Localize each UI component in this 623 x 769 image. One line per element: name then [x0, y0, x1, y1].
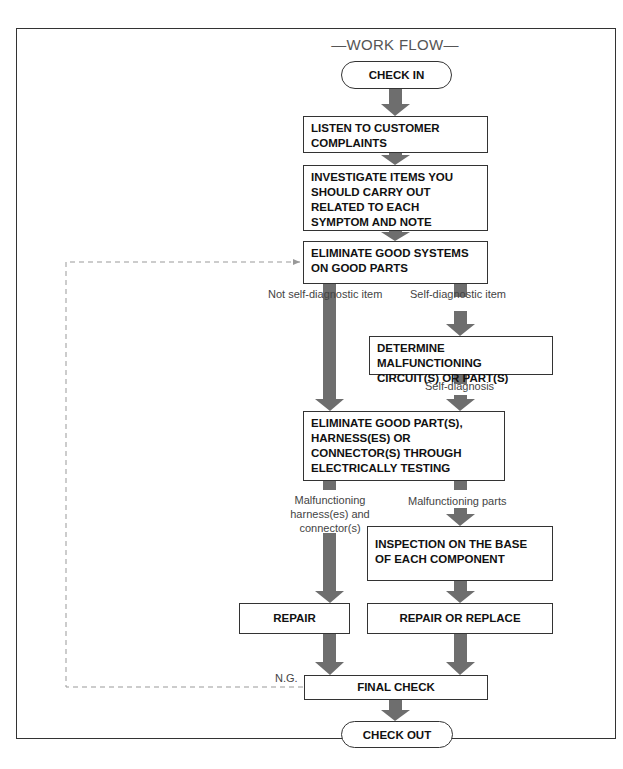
repair-node: REPAIR — [239, 603, 350, 634]
malfunctioning-harness-label: Malfunctioning harness(es) and connector… — [290, 493, 370, 535]
not-self-diagnostic-label: Not self-diagnostic item — [268, 287, 382, 301]
repair-or-replace-node: REPAIR OR REPLACE — [367, 603, 553, 634]
check-in-node: CHECK IN — [341, 61, 452, 89]
self-diagnosis-label: Self-diagnosis — [425, 379, 494, 393]
determine-malfunctioning-node: DETERMINE MALFUNCTIONING CIRCUIT(S) OR P… — [369, 336, 553, 375]
malf-harness-line-1: Malfunctioning — [290, 493, 370, 507]
investigate-items-node: INVESTIGATE ITEMS YOU SHOULD CARRY OUT R… — [303, 165, 488, 231]
malfunctioning-parts-label: Malfunctioning parts — [408, 494, 506, 508]
ng-label: N.G. — [275, 671, 298, 685]
final-check-node: FINAL CHECK — [304, 675, 488, 700]
diagram-title: —WORK FLOW— — [330, 36, 460, 53]
self-diagnostic-item-label: Self-diagnostic item — [410, 287, 506, 301]
check-out-node: CHECK OUT — [341, 721, 453, 748]
eliminate-good-systems-node: ELIMINATE GOOD SYSTEMS ON GOOD PARTS — [303, 241, 488, 284]
listen-complaints-node: LISTEN TO CUSTOMER COMPLAINTS — [303, 116, 488, 153]
eliminate-good-parts-node: ELIMINATE GOOD PART(S), HARNESS(ES) OR C… — [303, 411, 505, 481]
malf-harness-line-3: connector(s) — [290, 521, 370, 535]
inspection-node: INSPECTION ON THE BASE OF EACH COMPONENT — [367, 526, 553, 581]
malf-harness-line-2: harness(es) and — [290, 507, 370, 521]
